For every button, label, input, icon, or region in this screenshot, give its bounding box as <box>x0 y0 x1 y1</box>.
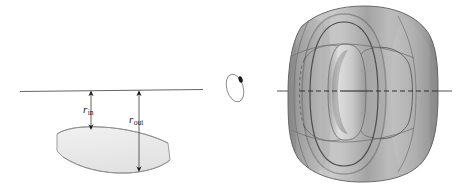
torus-cross-section-shape <box>57 127 170 173</box>
r-inner-symbol: r <box>83 103 87 115</box>
small-torus-icon <box>223 72 247 104</box>
torus-radii-figure: rin rout <box>0 0 458 188</box>
left-cross-section-panel <box>20 90 203 174</box>
torus-front-meridian-ring-outer <box>302 14 386 174</box>
figure-canvas <box>0 0 458 188</box>
axis-of-revolution <box>20 90 203 92</box>
small-torus-outline <box>223 72 247 104</box>
r-inner-label: rin <box>83 104 93 115</box>
r-outer-subscript: out <box>134 118 144 127</box>
tube-cross-section-dot <box>238 76 244 83</box>
r-outer-symbol: r <box>129 113 133 125</box>
torus-3d-rendering <box>277 4 452 186</box>
r-outer-label: rout <box>129 114 143 125</box>
r-inner-subscript: in <box>88 108 94 117</box>
